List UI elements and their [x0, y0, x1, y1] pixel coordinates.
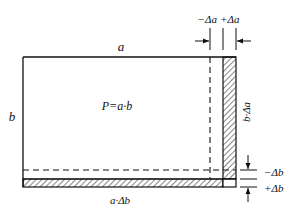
label-plus-delta-a: +Δa: [220, 13, 240, 25]
corner-square: [223, 179, 236, 187]
right-hatched-strip: [223, 57, 236, 179]
area-increment-diagram: a b P=a·b −Δa +Δa b·Δa a·Δb −Δb +Δb: [0, 0, 296, 214]
label-area: P=a·b: [101, 99, 132, 113]
label-side-b: b: [9, 109, 16, 124]
label-plus-delta-b: +Δb: [264, 182, 284, 194]
label-strip-bottom: a·Δb: [110, 194, 131, 206]
label-strip-right: b·Δa: [240, 101, 252, 122]
label-minus-delta-a: −Δa: [198, 13, 218, 25]
bottom-hatched-strip: [23, 179, 223, 187]
label-minus-delta-b: −Δb: [264, 166, 284, 178]
label-side-a: a: [118, 39, 125, 54]
